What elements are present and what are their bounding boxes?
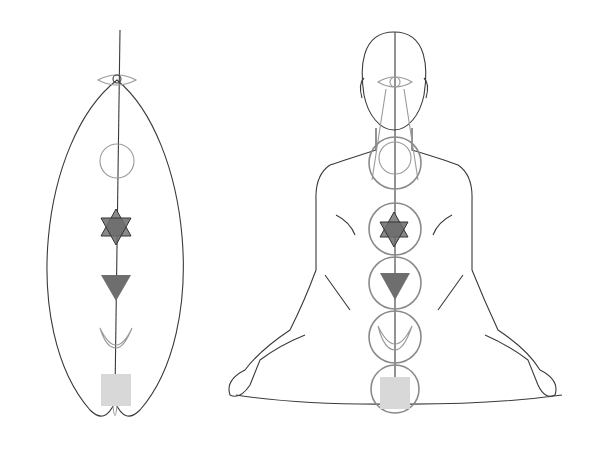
square-icon — [101, 374, 131, 406]
chakra-illustration — [0, 0, 594, 456]
hexagram-icon — [101, 209, 131, 245]
square-icon — [380, 377, 410, 409]
right-seated-figure — [229, 32, 562, 413]
left-mandorla — [47, 30, 183, 416]
down-triangle-icon — [380, 273, 410, 300]
hexagram-icon — [380, 212, 408, 247]
down-triangle-icon — [101, 275, 131, 301]
